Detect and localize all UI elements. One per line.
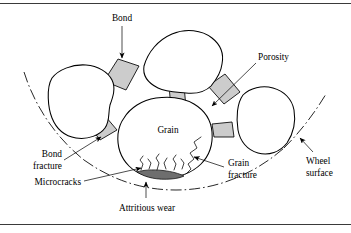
label-wheel-surface-line1: Wheel [306, 156, 331, 166]
grain-left [48, 65, 114, 139]
figure-container: Bond Porosity Grain Wheel surface Bond f… [0, 0, 351, 233]
label-grain-fracture-line2: fracture [228, 170, 257, 180]
label-grain: Grain [157, 125, 179, 135]
bond-fracture-leader-line [64, 137, 101, 160]
label-grain-fracture-line1: Grain [228, 158, 250, 168]
label-bond-fracture-line2: fracture [33, 161, 62, 171]
label-attritious-wear: Attritious wear [119, 203, 176, 213]
bond-bridge-lower-right [212, 122, 234, 137]
label-porosity: Porosity [258, 52, 289, 62]
grinding-wheel-structure-diagram: Bond Porosity Grain Wheel surface Bond f… [0, 0, 351, 233]
label-wheel-surface-line2: surface [306, 168, 333, 178]
microcracks-leader-line [84, 168, 141, 181]
grain-right [237, 87, 295, 154]
wheel-surface-leader-line [300, 138, 313, 152]
grain-top [144, 31, 223, 94]
label-microcracks: Microcracks [35, 177, 82, 187]
label-bond: Bond [112, 13, 132, 23]
label-bond-fracture-line1: Bond [42, 149, 62, 159]
